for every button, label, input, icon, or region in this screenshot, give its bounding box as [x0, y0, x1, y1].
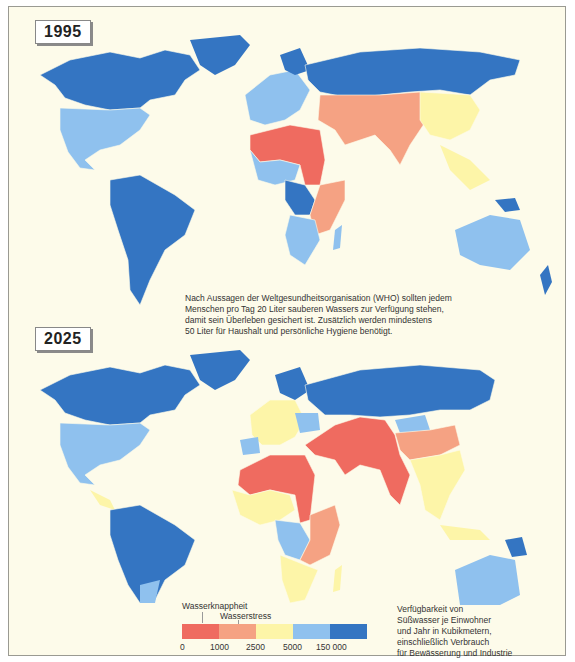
region-usa: [60, 108, 150, 170]
legend-swatch-2: [256, 624, 293, 639]
desc-line: Süßwasser je Einwohner: [397, 615, 567, 626]
region-usa: [60, 423, 150, 485]
region-south-china-se-asia: [410, 450, 465, 520]
desc-line: und Jahr in Kubikmetern,: [397, 626, 567, 637]
region-new-zealand: [540, 265, 552, 295]
legend-tick: 1000: [210, 642, 229, 652]
legend-tick: 2500: [246, 642, 265, 652]
region-indonesia: [440, 525, 490, 540]
legend-swatch-1: [219, 624, 256, 639]
region-middle-east-asia: [305, 417, 410, 505]
legend-swatch-0: [182, 624, 219, 639]
region-iberia: [240, 437, 260, 455]
region-china: [420, 92, 480, 140]
region-central-america: [90, 490, 115, 510]
region-canada: [40, 365, 200, 425]
legend-label-scarcity: Wasserknappheit: [182, 601, 247, 611]
legend-label-stress: Wasserstress: [220, 611, 271, 621]
region-russia: [305, 48, 520, 98]
legend-swatch-3: [293, 624, 330, 639]
legend-swatch-4: [330, 624, 367, 639]
world-map-1995: [0, 20, 575, 330]
region-canada: [40, 50, 200, 110]
region-south-america: [110, 175, 195, 305]
legend-tick: 5000: [283, 642, 302, 652]
legend-description: Verfügbarkeit von Süßwasser je Einwohner…: [397, 604, 567, 659]
note-line: damit sein Überleben gesichert ist. Zusä…: [185, 315, 485, 326]
note-line: 50 Liter für Haushalt und persönliche Hy…: [185, 326, 485, 337]
desc-line: Verfügbarkeit von: [397, 604, 567, 615]
region-new-guinea: [495, 198, 520, 212]
legend-tick: 0: [180, 642, 185, 652]
note-line: Menschen pro Tag 20 Liter sauberen Wasse…: [185, 304, 485, 315]
legend-pointer-scarcity: [202, 612, 203, 623]
region-scandinavia: [280, 48, 310, 75]
region-new-guinea: [505, 537, 527, 557]
region-europe: [245, 70, 310, 125]
region-se-asia: [440, 145, 490, 190]
region-madagascar: [333, 225, 342, 250]
note-line: Nach Aussagen der Weltgesundheitsorganis…: [185, 293, 485, 304]
region-southern-africa: [285, 215, 320, 265]
region-australia: [455, 555, 520, 605]
region-europe: [250, 400, 305, 445]
desc-line: für Bewässerung und Industrie: [397, 648, 567, 659]
who-note: Nach Aussagen der Weltgesundheitsorganis…: [185, 293, 485, 337]
region-australia: [455, 215, 530, 270]
legend-tick: 150 000: [316, 642, 347, 652]
world-map-2025: [0, 345, 575, 605]
region-russia: [305, 365, 495, 417]
region-sahel: [232, 490, 295, 525]
region-madagascar: [333, 565, 342, 592]
desc-line: einschließlich Verbrauch: [397, 637, 567, 648]
region-scandinavia: [275, 367, 310, 400]
